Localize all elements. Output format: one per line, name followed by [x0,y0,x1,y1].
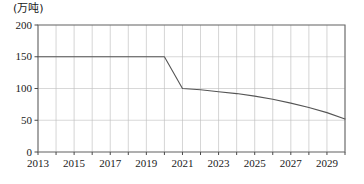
y-axis-tick-label: 0 [2,147,32,158]
x-axis-tick-label: 2025 [235,157,275,169]
x-axis-tick-label: 2013 [18,157,58,169]
x-axis-tick-label: 2019 [126,157,166,169]
data-series-group [38,57,345,119]
x-axis-tick-label: 2017 [90,157,130,169]
x-axis-tick-label: 2027 [271,157,311,169]
chart-container: (万吨) 050100150200 2013201520172019202120… [0,0,364,184]
horizontal-gridlines [38,57,345,121]
x-axis-tick-label: 2029 [307,157,347,169]
x-axis-tick-label: 2021 [162,157,202,169]
series-line [38,57,345,119]
x-axis-tick-label: 2023 [199,157,239,169]
x-axis-tick-label: 2015 [54,157,94,169]
y-axis-tick-label: 200 [2,20,32,31]
y-axis-tick-label: 150 [2,51,32,62]
y-axis-tick-label: 100 [2,83,32,94]
y-axis-tick-label: 50 [2,115,32,126]
